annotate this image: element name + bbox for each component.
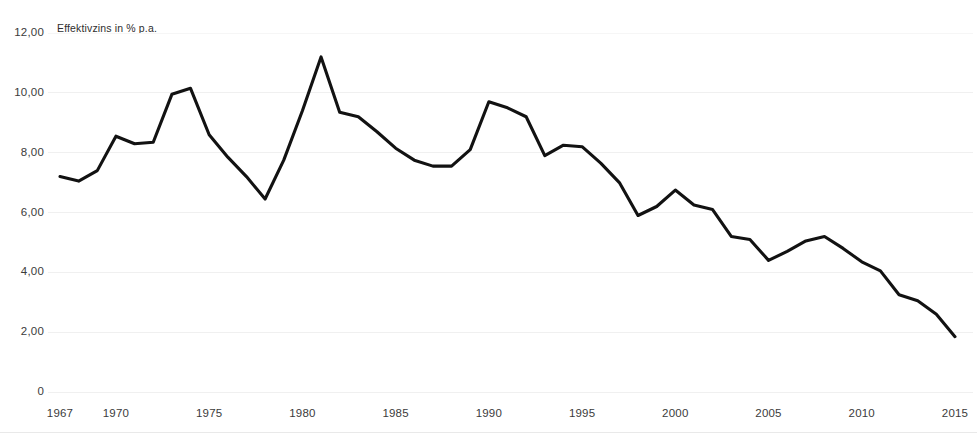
chart-container: Effektivzins in % p.a. 02,004,006,008,00… (0, 0, 977, 435)
chart-svg (0, 0, 977, 435)
series-line (60, 57, 955, 337)
plot-area (0, 0, 977, 435)
